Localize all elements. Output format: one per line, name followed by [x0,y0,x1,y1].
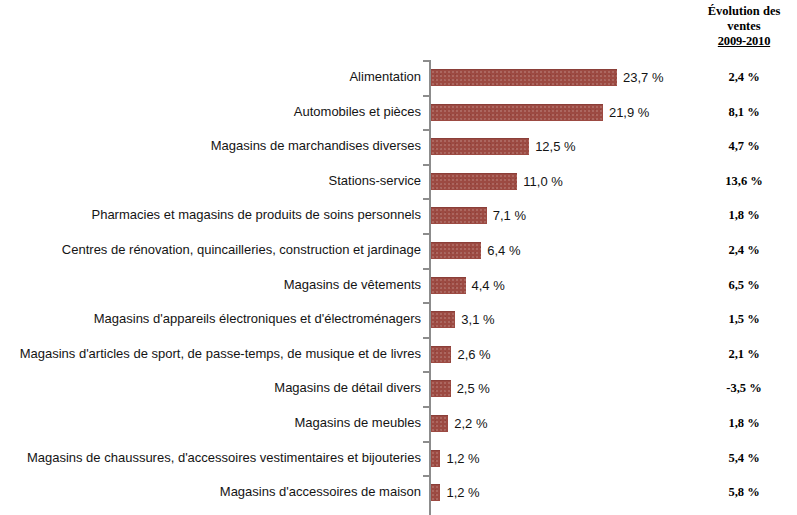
bar-row: Magasins de meubles2,2 %1,8 % [0,406,797,441]
bar [431,311,455,328]
category-label: Magasins de marchandises diverses [0,129,421,164]
bar-row: Automobiles et pièces21,9 %8,1 % [0,95,797,130]
bar [431,450,440,467]
evolution-value: 1,5 % [694,310,794,328]
category-label: Magasins de vêtements [0,268,421,303]
category-label: Centres de rénovation, quincailleries, c… [0,233,421,268]
evolution-value: 8,1 % [694,103,794,121]
axis-tick [423,337,430,339]
evolution-value: -3,5 % [694,379,794,397]
axis-tick [423,95,430,97]
bar-value-label: 23,7 % [623,69,663,86]
bar [431,138,529,155]
bar-row: Stations-service11,0 %13,6 % [0,164,797,199]
bar [431,277,466,294]
bar-row: Magasins d'accessoires de maison1,2 %5,8… [0,475,797,510]
bar-row: Magasins de détail divers2,5 %-3,5 % [0,371,797,406]
bar-row: Magasins de chaussures, d'accessoires ve… [0,441,797,476]
axis-tick [423,268,430,270]
bar [431,380,451,397]
bar-value-label: 1,2 % [446,450,479,467]
bar-row: Magasins de marchandises diverses12,5 %4… [0,129,797,164]
evolution-value: 1,8 % [694,414,794,432]
axis-tick [423,129,430,131]
category-label: Magasins d'accessoires de maison [0,475,421,510]
axis-tick [423,60,430,62]
bar [431,346,451,363]
bar [431,69,617,86]
evolution-value: 2,1 % [694,345,794,363]
bar [431,415,448,432]
bar-value-label: 21,9 % [609,104,649,121]
evolution-value: 5,4 % [694,449,794,467]
bar-value-label: 7,1 % [493,207,526,224]
axis-tick [423,302,430,304]
bar-value-label: 3,1 % [461,311,494,328]
category-label: Magasins de détail divers [0,371,421,406]
axis-tick [423,406,430,408]
axis-tick [423,441,430,443]
bar-value-label: 1,2 % [446,484,479,501]
category-label: Stations-service [0,164,421,199]
bar-row: Centres de rénovation, quincailleries, c… [0,233,797,268]
axis-tick [423,198,430,200]
bar-value-label: 4,4 % [472,277,505,294]
bar-row: Alimentation23,7 %2,4 % [0,60,797,95]
bar-row: Pharmacies et magasins de produits de so… [0,198,797,233]
axis-tick [423,164,430,166]
bar [431,207,487,224]
category-label: Magasins d'appareils électroniques et d'… [0,302,421,337]
evolution-value: 5,8 % [694,483,794,501]
bar [431,242,481,259]
axis-tick [423,233,430,235]
category-label: Magasins d'articles de sport, de passe-t… [0,337,421,372]
evolution-value: 2,4 % [694,68,794,86]
category-label: Pharmacies et magasins de produits de so… [0,198,421,233]
bar [431,484,440,501]
category-label: Magasins de meubles [0,406,421,441]
bar [431,173,517,190]
evolution-value: 4,7 % [694,137,794,155]
bar-value-label: 2,2 % [454,415,487,432]
evolution-value: 2,4 % [694,241,794,259]
category-label: Magasins de chaussures, d'accessoires ve… [0,441,421,476]
category-label: Automobiles et pièces [0,95,421,130]
evolution-value: 13,6 % [694,172,794,190]
bar-value-label: 11,0 % [523,173,563,190]
bar-row: Magasins d'articles de sport, de passe-t… [0,337,797,372]
evolution-value: 6,5 % [694,276,794,294]
bar-row: Magasins d'appareils électroniques et d'… [0,302,797,337]
bar-row: Magasins de vêtements4,4 %6,5 % [0,268,797,303]
bar-value-label: 6,4 % [487,242,520,259]
evolution-value: 1,8 % [694,206,794,224]
bar [431,104,603,121]
category-label: Alimentation [0,60,421,95]
bar-value-label: 2,5 % [457,380,490,397]
bar-chart: Alimentation23,7 %2,4 %Automobiles et pi… [0,0,797,515]
bar-value-label: 12,5 % [535,138,575,155]
axis-tick [423,475,430,477]
axis-tick [423,371,430,373]
bar-value-label: 2,6 % [457,346,490,363]
